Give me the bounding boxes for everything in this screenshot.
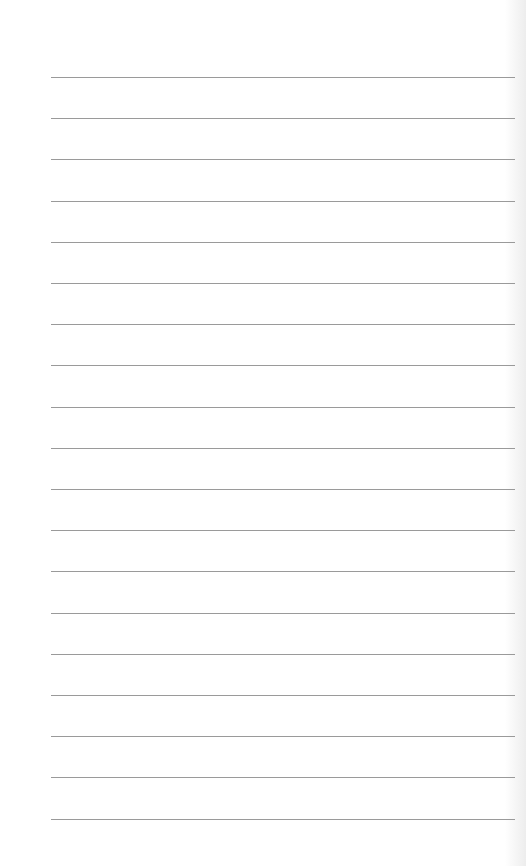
ruled-line [51, 324, 515, 325]
ruled-line [51, 283, 515, 284]
ruled-line [51, 695, 515, 696]
ruled-line [51, 118, 515, 119]
ruled-line [51, 448, 515, 449]
ruled-line [51, 571, 515, 572]
ruled-line [51, 777, 515, 778]
ruled-line [51, 736, 515, 737]
ruled-line [51, 201, 515, 202]
lined-paper-page [0, 0, 526, 866]
ruled-line [51, 242, 515, 243]
ruled-line [51, 159, 515, 160]
ruled-line [51, 819, 515, 820]
ruled-line [51, 365, 515, 366]
ruled-line [51, 407, 515, 408]
ruled-line [51, 613, 515, 614]
ruled-line [51, 77, 515, 78]
ruled-line [51, 654, 515, 655]
ruled-line [51, 530, 515, 531]
ruled-line [51, 489, 515, 490]
